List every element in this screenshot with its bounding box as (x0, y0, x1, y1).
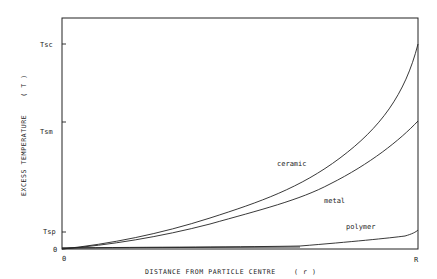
y-tick-label-tsc: Tsc (40, 41, 53, 49)
polymer-curve (62, 230, 418, 248)
y-tick-label-tsp: Tsp (43, 228, 56, 236)
ceramic-curve (62, 44, 418, 249)
x-tick-label-r: R (414, 256, 419, 264)
metal-label: metal (324, 197, 345, 205)
y-tick-label-tsm: Tsm (40, 128, 53, 136)
x-tick-label-zero: 0 (62, 255, 66, 263)
x-axis-title: DISTANCE FROM PARTICLE CENTRE ( r ) (145, 268, 317, 276)
chart: Tsc Tsm Tsp 0 0 R EXCESS TEMPERATURE ( T… (0, 0, 437, 279)
y-tick-label-zero: 0 (53, 246, 57, 254)
plot-frame (62, 18, 418, 249)
polymer-label: polymer (346, 223, 376, 231)
ceramic-label: ceramic (277, 160, 307, 168)
baseline-curve (62, 247, 300, 248)
y-axis-title: EXCESS TEMPERATURE ( T ) (20, 74, 28, 196)
